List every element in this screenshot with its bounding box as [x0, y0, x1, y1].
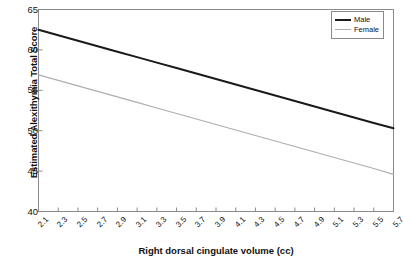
- legend-label-female: Female: [354, 25, 379, 34]
- y-tick-label: 50: [12, 126, 38, 136]
- y-tick-marks: [39, 10, 43, 212]
- y-tick-label: 60: [12, 45, 38, 55]
- chart-title: [0, 0, 404, 1]
- series-line-female: [39, 75, 394, 174]
- legend-item-male[interactable]: Male: [335, 15, 379, 24]
- data-series-group: [39, 30, 394, 175]
- legend-item-female[interactable]: Female: [335, 25, 379, 34]
- chart-legend: Male Female: [331, 11, 384, 39]
- y-tick-label: 55: [12, 85, 38, 95]
- plot-frame: [39, 10, 394, 212]
- y-tick-label: 65: [12, 5, 38, 15]
- chart-figure: Estimated Alexithymia Total Score 656055…: [0, 0, 404, 263]
- series-line-male: [39, 30, 394, 129]
- y-tick-label: 40: [12, 207, 38, 217]
- x-axis-title: Right dorsal cingulate volume (cc): [38, 245, 394, 256]
- y-tick-label: 45: [12, 166, 38, 176]
- legend-label-male: Male: [354, 15, 370, 24]
- x-tick-marks: [39, 208, 394, 212]
- legend-line-swatch-male: [335, 19, 351, 21]
- legend-line-swatch-female: [335, 29, 351, 30]
